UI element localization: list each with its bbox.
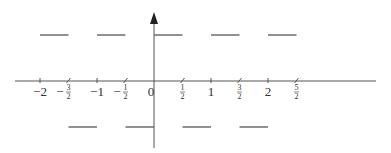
- fraction-denominator: 2: [181, 92, 185, 101]
- fraction-numerator: 3: [238, 83, 242, 92]
- tick-label: −1: [90, 84, 104, 99]
- fraction-numerator: 3: [67, 83, 71, 92]
- fraction-numerator: 5: [295, 83, 299, 92]
- x-axis-labels: −2−32−1−12012132252: [33, 83, 299, 101]
- fraction-numerator: 1: [181, 83, 185, 92]
- fraction-denominator: 2: [67, 92, 71, 101]
- tick-label-sign: −: [56, 84, 63, 99]
- tick-label: −2: [33, 84, 47, 99]
- tick-label: 2: [265, 84, 272, 99]
- tick-label-sign: −: [113, 84, 120, 99]
- fraction-numerator: 1: [124, 83, 128, 92]
- fraction-denominator: 2: [238, 92, 242, 101]
- tick-label: 0: [148, 84, 155, 99]
- step-function-diagram: −2−32−1−12012132252: [0, 0, 391, 153]
- tick-label: 1: [208, 84, 215, 99]
- y-axis-arrow-icon: [150, 12, 158, 24]
- fraction-denominator: 2: [124, 92, 128, 101]
- fraction-denominator: 2: [295, 92, 299, 101]
